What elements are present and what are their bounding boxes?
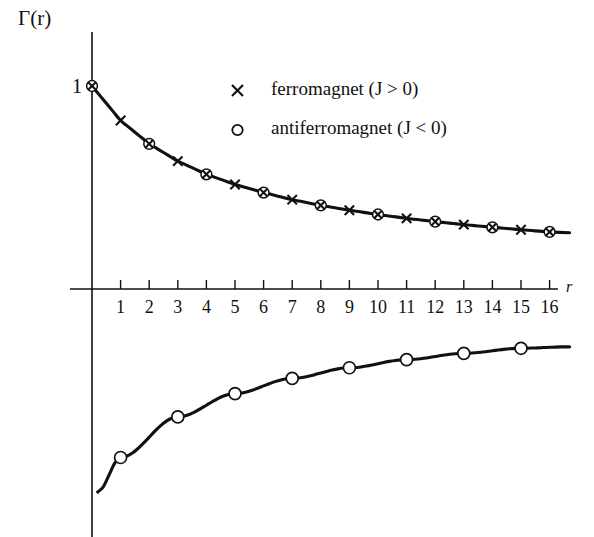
x-axis-tick-label: 15 xyxy=(512,297,530,317)
legend-entry-ferromagnet: ferromagnet (J > 0) xyxy=(232,78,418,100)
chart-canvas: 12345678910111213141516 Γ(r) r 1 ferroma… xyxy=(0,0,594,537)
circle-marker xyxy=(115,451,127,463)
x-axis-tick-label: 16 xyxy=(541,297,559,317)
ferromagnet-markers xyxy=(87,81,555,238)
x-axis-tick-label: 10 xyxy=(369,297,387,317)
x-axis-tick-label: 7 xyxy=(288,297,297,317)
y-axis-label: Γ(r) xyxy=(18,6,51,30)
antiferromagnet-markers xyxy=(115,342,527,463)
circle-marker xyxy=(172,411,184,423)
y-axis-one-label: 1 xyxy=(72,74,83,98)
legend-label-antiferromagnet: antiferromagnet (J < 0) xyxy=(271,117,447,139)
legend-label-ferromagnet: ferromagnet (J > 0) xyxy=(271,78,418,100)
x-axis-tick-label: 3 xyxy=(173,297,182,317)
x-axis-tick-labels: 12345678910111213141516 xyxy=(116,297,559,317)
x-axis-tick-label: 12 xyxy=(426,297,444,317)
legend: ferromagnet (J > 0) antiferromagnet (J <… xyxy=(232,78,447,139)
x-axis-label: r xyxy=(566,278,573,295)
circle-marker xyxy=(343,362,355,374)
legend-entry-antiferromagnet: antiferromagnet (J < 0) xyxy=(232,117,447,139)
circle-marker xyxy=(458,347,470,359)
circle-marker xyxy=(286,372,298,384)
x-axis-tick-label: 6 xyxy=(259,297,268,317)
x-axis-tick-label: 2 xyxy=(145,297,154,317)
x-axis-tick-label: 9 xyxy=(345,297,354,317)
x-axis-tick-label: 5 xyxy=(231,297,240,317)
circle-marker-icon xyxy=(232,125,242,135)
axes-group xyxy=(70,32,558,537)
x-axis-tick-label: 13 xyxy=(455,297,473,317)
x-axis-tick-label: 4 xyxy=(202,297,211,317)
circle-marker xyxy=(229,388,241,400)
circle-marker xyxy=(401,354,413,366)
circle-marker xyxy=(515,342,527,354)
correlation-function-figure: 12345678910111213141516 Γ(r) r 1 ferroma… xyxy=(0,0,594,537)
x-axis-tick-label: 1 xyxy=(116,297,125,317)
x-axis-tick-label: 11 xyxy=(398,297,415,317)
ferromagnet-curve xyxy=(92,86,570,233)
x-axis-tick-label: 8 xyxy=(316,297,325,317)
x-axis-ticks xyxy=(121,280,550,289)
x-axis-tick-label: 14 xyxy=(483,297,501,317)
cross-marker-icon xyxy=(232,85,243,96)
antiferromagnet-curve xyxy=(98,347,570,492)
